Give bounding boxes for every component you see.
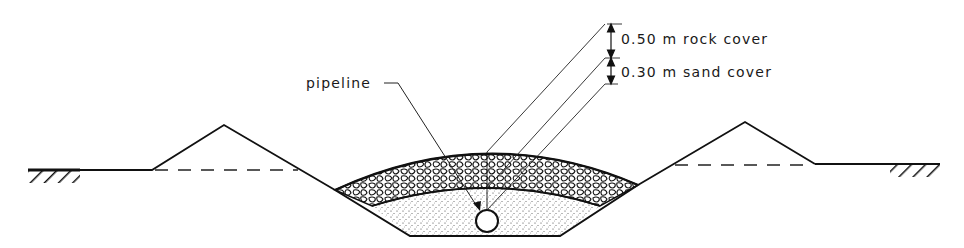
right-spoil-mound — [638, 122, 815, 185]
dimension-arrows — [608, 24, 615, 84]
left-ground-hatch — [28, 170, 80, 183]
rock-cover-label: 0.50 m rock cover — [621, 31, 768, 47]
pipeline-circle — [476, 210, 498, 232]
trench-cross-section: 0.50 m rock cover 0.30 m sand cover pipe… — [0, 0, 964, 248]
sand-cover-label: 0.30 m sand cover — [621, 64, 772, 80]
pipeline-label: pipeline — [306, 75, 371, 91]
right-ground-hatch — [815, 164, 940, 177]
